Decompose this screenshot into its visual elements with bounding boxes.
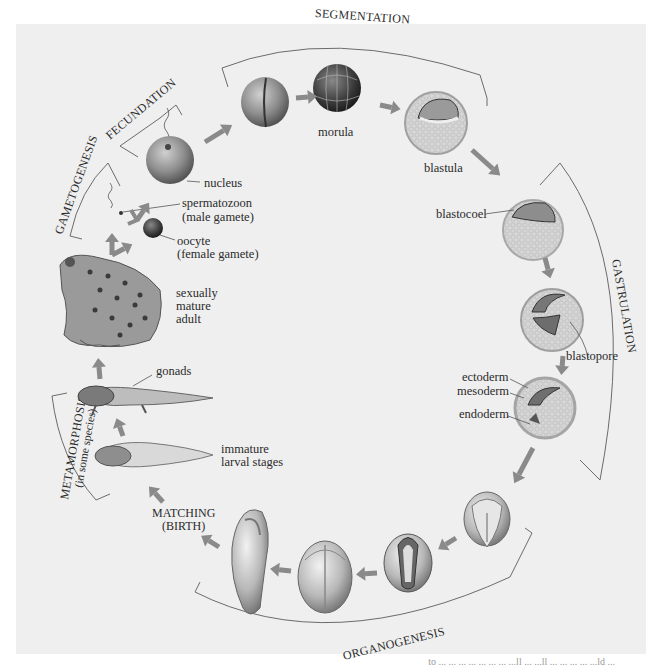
label-blastula: blastula xyxy=(424,161,463,175)
neural-groove-embryo xyxy=(384,534,432,592)
arrow-tube-to-tailbud xyxy=(269,562,291,578)
neural-tube-embryo xyxy=(298,541,352,613)
stage-label-gametogenesis: GAMETOGENESIS xyxy=(52,133,101,236)
mid-gastrula xyxy=(521,289,588,358)
life-cycle-diagram: SEGMENTATION FECUNDATION GAMETOGENESIS G… xyxy=(0,0,655,670)
label-hatching: MATCHING xyxy=(152,506,216,520)
label-adult: adult xyxy=(176,312,202,326)
label-blastocoel: blastocoel xyxy=(436,207,487,221)
adult-frog xyxy=(60,255,161,346)
larva xyxy=(95,443,213,467)
arrow-hatching-to-larva xyxy=(144,482,168,507)
label-sexually: sexually xyxy=(176,286,218,300)
label-oocyte: oocyte xyxy=(177,234,211,248)
arrow-morula-to-blastula xyxy=(379,98,402,116)
neural-plate-embryo xyxy=(464,492,510,547)
label-immature: immature xyxy=(221,442,269,456)
arrow-egg-to-2cell xyxy=(201,119,236,148)
label-endoderm: endoderm xyxy=(459,407,509,421)
label-gonads: gonads xyxy=(156,364,192,378)
label-mature: mature xyxy=(176,299,211,313)
two-cell-embryo xyxy=(241,77,289,127)
early-gastrula xyxy=(485,200,563,260)
label-spermatozoon: spermatozoon xyxy=(182,196,253,210)
fertilized-egg xyxy=(146,108,200,184)
arrow-blastula-to-gastrula xyxy=(467,145,505,181)
stage-label-segmentation: SEGMENTATION xyxy=(315,6,411,27)
label-blastopore: blastopore xyxy=(566,349,619,363)
late-gastrula xyxy=(508,378,575,438)
arrow-groove-to-tube xyxy=(356,566,378,581)
oocyte xyxy=(143,218,175,240)
egg-icon xyxy=(146,136,194,184)
label-spermatozoon-note: (male gamete) xyxy=(182,210,254,224)
label-mesoderm: mesoderm xyxy=(457,384,509,398)
label-oocyte-note: (female gamete) xyxy=(177,247,259,261)
blastula xyxy=(405,92,467,154)
arrow-late-to-neural-plate xyxy=(508,445,539,487)
spermatozoon-icon xyxy=(108,183,112,208)
arrow-tailbud-to-hatching xyxy=(197,530,222,553)
label-ectoderm: ectoderm xyxy=(462,370,509,384)
sperm-fork-icon xyxy=(128,210,137,224)
arrow-larva-to-tadpole xyxy=(110,416,130,439)
tailbud-embryo xyxy=(232,510,269,614)
cutoff-caption-text: to ... ... ... ... ... ... ... ...ll ...… xyxy=(0,656,655,670)
label-birth: (BIRTH) xyxy=(162,519,205,533)
arrow-plate-to-groove xyxy=(434,532,459,555)
tadpole-with-legs xyxy=(78,375,213,415)
arrow-tadpole-to-adult xyxy=(91,357,107,379)
label-morula: morula xyxy=(318,125,354,139)
morula xyxy=(313,64,361,112)
label-nucleus: nucleus xyxy=(204,176,242,190)
figure-page: SEGMENTATION FECUNDATION GAMETOGENESIS G… xyxy=(0,0,655,670)
label-larval-stages: larval stages xyxy=(221,455,283,469)
